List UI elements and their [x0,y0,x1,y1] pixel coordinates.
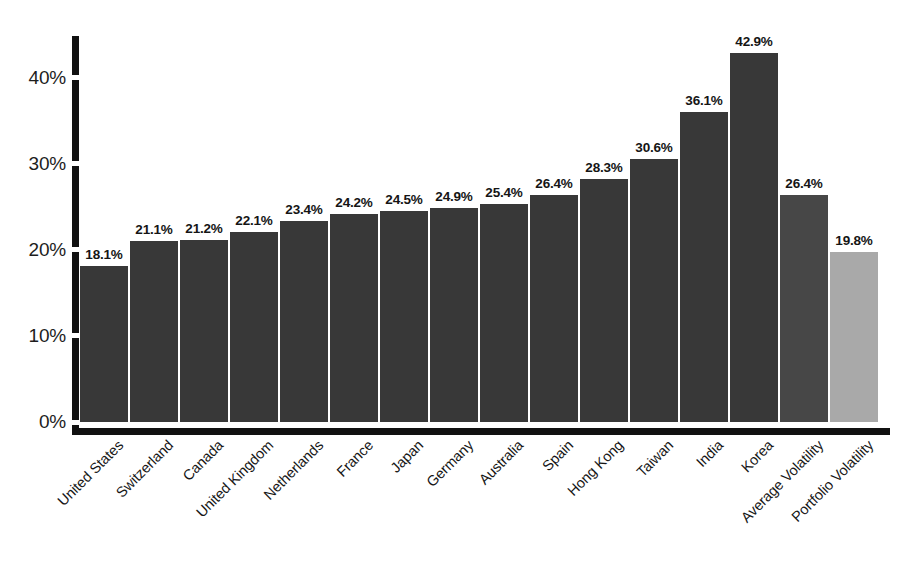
bar[interactable] [230,232,278,422]
bar-value-label: 22.1% [235,213,272,228]
x-axis-category-label: United States [54,437,126,509]
bar-value-label: 28.3% [585,160,622,175]
y-axis-tick-label: 20% [8,239,66,261]
bar[interactable] [430,208,478,422]
bar-group[interactable]: 23.4% [279,36,329,422]
bar-value-label: 26.4% [785,176,822,191]
bar[interactable] [580,179,628,422]
x-axis-category-label: Japan [387,437,426,476]
bar-value-label: 25.4% [485,185,522,200]
x-axis-category-label: Germany [423,437,476,490]
bar-value-label: 21.2% [185,221,222,236]
y-axis-tick-label: 0% [8,411,66,433]
bar[interactable] [780,195,828,422]
bar-value-label: 24.9% [435,189,472,204]
bar-group[interactable]: 24.5% [379,36,429,422]
bar-group[interactable]: 21.1% [129,36,179,422]
bar-value-label: 24.5% [385,192,422,207]
bar[interactable] [530,195,578,422]
bar-group[interactable]: 22.1% [229,36,279,422]
bar-value-label: 36.1% [685,93,722,108]
bar-group[interactable]: 21.2% [179,36,229,422]
bar[interactable] [680,112,728,422]
bar[interactable] [280,221,328,422]
bar[interactable] [130,241,178,422]
bar-group[interactable]: 42.9% [729,36,779,422]
bar-value-label: 42.9% [735,34,772,49]
x-axis-category-label: Australia [476,437,527,488]
bar-value-label: 19.8% [835,233,872,248]
bar-group[interactable]: 28.3% [579,36,629,422]
bar[interactable] [480,204,528,422]
y-axis-tick-label: 40% [8,67,66,89]
bar-group[interactable]: 26.4% [779,36,829,422]
x-axis-category-label: Taiwan [634,437,677,480]
bar[interactable] [80,266,128,422]
bar[interactable] [180,240,228,422]
bar-group[interactable]: 36.1% [679,36,729,422]
volatility-bar-chart: 0%10%20%30%40% 18.1%21.1%21.2%22.1%23.4%… [0,0,904,587]
x-axis-category-label: France [334,437,377,480]
bar-value-label: 21.1% [135,222,172,237]
bar-value-label: 24.2% [335,195,372,210]
bar-value-label: 23.4% [285,202,322,217]
x-axis-category-label: Canada [180,437,227,484]
y-axis-tick-label: 30% [8,153,66,175]
x-axis-category-label: Korea [738,437,776,475]
plot-area: 18.1%21.1%21.2%22.1%23.4%24.2%24.5%24.9%… [79,36,879,422]
x-axis-category-label: India [693,437,726,470]
bar-group[interactable]: 18.1% [79,36,129,422]
x-axis-line [72,428,890,435]
bar-group[interactable]: 24.2% [329,36,379,422]
bar-group[interactable]: 26.4% [529,36,579,422]
bar[interactable] [830,252,878,422]
y-axis-line [72,36,79,434]
bar[interactable] [330,214,378,422]
bar-value-label: 18.1% [85,247,122,262]
y-axis-tick-label: 10% [8,325,66,347]
bar-group[interactable]: 19.8% [829,36,879,422]
x-axis-category-label: Spain [539,437,576,474]
bar-group[interactable]: 24.9% [429,36,479,422]
bar[interactable] [630,159,678,422]
bar-value-label: 26.4% [535,176,572,191]
bar-group[interactable]: 25.4% [479,36,529,422]
x-axis-category-labels: United StatesSwitzerlandCanadaUnited Kin… [79,437,879,587]
bar[interactable] [730,53,778,422]
bar-group[interactable]: 30.6% [629,36,679,422]
bar-value-label: 30.6% [635,140,672,155]
bar[interactable] [380,211,428,422]
